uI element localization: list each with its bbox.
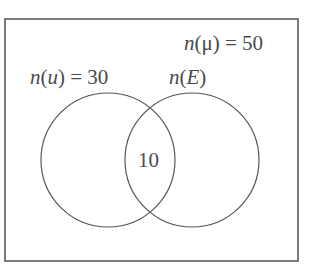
- set-e-fn: n: [169, 65, 180, 89]
- universe-value: = 50: [225, 31, 263, 55]
- universe-set-symbol: μ: [202, 31, 213, 55]
- set-u-label: n(u) = 30: [30, 67, 108, 88]
- universe-box: [5, 19, 298, 261]
- venn-diagram: [0, 0, 317, 269]
- set-e-label: n(E): [169, 67, 206, 88]
- intersection-label: 10: [138, 150, 159, 171]
- set-u-fn: n: [30, 65, 41, 89]
- universe-fn: n: [184, 31, 195, 55]
- set-e-symbol: E: [187, 65, 200, 89]
- universe-label: n(μ) = 50: [184, 33, 263, 54]
- set-u-symbol: u: [48, 65, 59, 89]
- set-u-value: = 30: [70, 65, 108, 89]
